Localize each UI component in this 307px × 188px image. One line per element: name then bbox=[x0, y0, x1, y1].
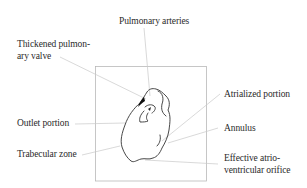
leader-outlet-portion bbox=[75, 123, 125, 124]
label-thickened-valve-line1: Thickened pulmon- bbox=[17, 39, 90, 51]
label-effective-av-orifice: Effective atrio- ventricular orifice bbox=[224, 153, 290, 176]
label-annulus: Annulus bbox=[224, 123, 256, 135]
label-atrialized-portion: Atrialized portion bbox=[224, 89, 290, 101]
leader-effective-orifice bbox=[145, 160, 218, 164]
leader-thickened-valve bbox=[60, 57, 146, 99]
leader-trabecular-zone bbox=[82, 146, 120, 155]
label-pulmonary-arteries: Pulmonary arteries bbox=[119, 16, 189, 28]
leader-atrialized-portion bbox=[162, 94, 220, 141]
leader-pulmonary-arteries bbox=[144, 28, 150, 96]
thickened-valve-mark bbox=[138, 97, 145, 107]
label-effective-orifice-line2: ventricular orifice bbox=[224, 165, 290, 177]
right-ventricle-outline bbox=[121, 89, 170, 162]
label-trabecular-zone: Trabecular zone bbox=[17, 149, 77, 161]
label-thickened-pulmonary-valve: Thickened pulmon- ary valve bbox=[17, 39, 90, 62]
label-outlet-portion: Outlet portion bbox=[17, 118, 69, 130]
frame-box bbox=[96, 67, 207, 182]
label-effective-orifice-line1: Effective atrio- bbox=[224, 153, 290, 165]
valve-small-mark bbox=[148, 107, 151, 111]
label-thickened-valve-line2: ary valve bbox=[17, 51, 90, 63]
